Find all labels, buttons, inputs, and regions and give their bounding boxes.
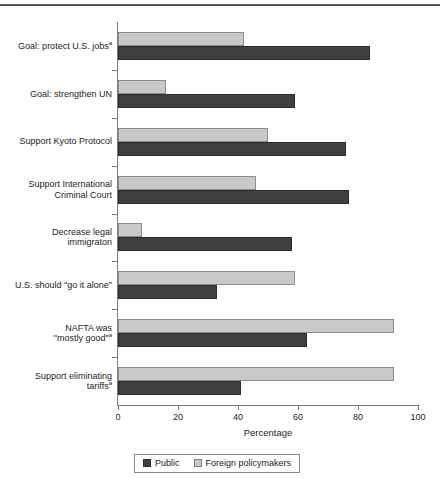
bar-row-foreign-policymakers (118, 367, 418, 381)
bar-public (118, 190, 349, 204)
chart-legend: Public Foreign policymakers (134, 454, 300, 473)
category-label: Support InternationalCriminal Court (2, 179, 112, 200)
bar-group (118, 32, 418, 60)
dark-swatch-icon (143, 459, 151, 467)
light-swatch-icon (194, 459, 202, 467)
bar-row-foreign-policymakers (118, 223, 418, 237)
bar-row-public (118, 381, 418, 395)
bar-group (118, 223, 418, 251)
grouped-bar-chart: Goal: protect U.S. jobsaGoal: strengthen… (0, 12, 440, 478)
x-axis-tick-label: 40 (218, 412, 258, 422)
category-label: Support Kyoto Protocol (2, 136, 112, 147)
legend-label-foreign-policymakers: Foreign policymakers (206, 458, 292, 468)
bar-foreign-policymakers (118, 128, 268, 142)
bar-foreign-policymakers (118, 80, 166, 94)
bar-row-public (118, 285, 418, 299)
bar-row-foreign-policymakers (118, 32, 418, 46)
x-axis-line (117, 405, 419, 406)
plot-area (118, 22, 418, 405)
legend-label-public: Public (155, 458, 180, 468)
y-axis-tick (112, 166, 118, 167)
x-axis-title: Percentage (118, 427, 418, 438)
bar-group (118, 128, 418, 156)
bar-foreign-policymakers (118, 271, 295, 285)
category-label: Goal: protect U.S. jobsa (2, 41, 112, 52)
bar-row-foreign-policymakers (118, 319, 418, 333)
legend-entry-public: Public (143, 458, 180, 468)
x-axis-tick (118, 405, 119, 410)
bar-row-public (118, 46, 418, 60)
bar-row-public (118, 237, 418, 251)
category-label: Decrease legalimmigraton (2, 227, 112, 248)
bar-foreign-policymakers (118, 32, 244, 46)
y-axis-tick (112, 261, 118, 262)
bar-row-foreign-policymakers (118, 176, 418, 190)
bar-row-foreign-policymakers (118, 128, 418, 142)
bar-public (118, 142, 346, 156)
bar-public (118, 285, 217, 299)
x-axis-tick-label: 20 (158, 412, 198, 422)
bar-row-foreign-policymakers (118, 271, 418, 285)
x-axis-tick (238, 405, 239, 410)
bar-foreign-policymakers (118, 223, 142, 237)
category-label: NAFTA was"mostly good"a (2, 323, 112, 344)
legend-entry-foreign-policymakers: Foreign policymakers (194, 458, 292, 468)
x-axis-tick-label: 60 (278, 412, 318, 422)
category-axis-labels: Goal: protect U.S. jobsaGoal: strengthen… (0, 22, 112, 405)
category-label: U.S. should "go it alone" (2, 280, 112, 291)
bar-public (118, 46, 370, 60)
x-axis-tick-label: 100 (398, 412, 438, 422)
bar-public (118, 381, 241, 395)
bar-group (118, 80, 418, 108)
header-rule (0, 4, 440, 6)
bar-group (118, 319, 418, 347)
bar-row-public (118, 333, 418, 347)
x-axis-tick (298, 405, 299, 410)
x-axis-tick-label: 0 (98, 412, 138, 422)
bar-group (118, 367, 418, 395)
category-label: Goal: strengthen UN (2, 89, 112, 100)
x-axis-tick (418, 405, 419, 410)
bar-row-public (118, 142, 418, 156)
bar-group (118, 176, 418, 204)
bar-public (118, 94, 295, 108)
y-axis-tick (112, 309, 118, 310)
bar-foreign-policymakers (118, 176, 256, 190)
x-axis-tick (178, 405, 179, 410)
category-label: Support eliminatingtariffsa (2, 371, 112, 392)
y-axis-tick (112, 357, 118, 358)
y-axis-tick (112, 118, 118, 119)
bar-row-foreign-policymakers (118, 80, 418, 94)
bar-group (118, 271, 418, 299)
y-axis-tick (112, 70, 118, 71)
bar-row-public (118, 190, 418, 204)
bar-row-public (118, 94, 418, 108)
x-axis-tick (358, 405, 359, 410)
y-axis-tick (112, 214, 118, 215)
bar-public (118, 333, 307, 347)
bar-public (118, 237, 292, 251)
bar-foreign-policymakers (118, 319, 394, 333)
bar-foreign-policymakers (118, 367, 394, 381)
x-axis-tick-label: 80 (338, 412, 378, 422)
